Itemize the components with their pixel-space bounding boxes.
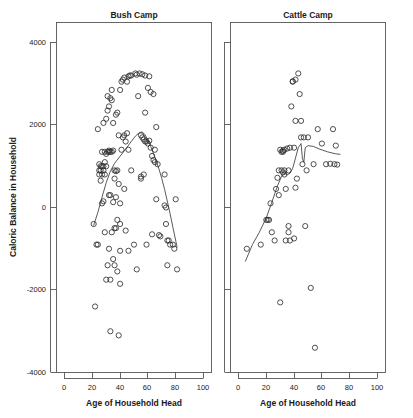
chart-figure: Bush Camp 4000 2000 0 -2000 -4000 Calori…	[0, 0, 413, 418]
xtick-label-20: 20	[88, 383, 96, 392]
xtick-label-60: 60	[143, 383, 151, 392]
xtick2-label-80: 80	[345, 383, 353, 392]
ytick-label-4000: 4000	[29, 38, 46, 47]
ytick-label-2000: 2000	[29, 120, 46, 129]
scatter-plot-svg: Bush Camp 4000 2000 0 -2000 -4000 Calori…	[0, 0, 413, 418]
figure-background	[0, 0, 413, 418]
xtick-label-80: 80	[171, 383, 179, 392]
xtick2-label-60: 60	[317, 383, 325, 392]
xtick-label-40: 40	[116, 383, 124, 392]
xtick2-label-100: 100	[371, 383, 384, 392]
xtick-label-100: 100	[197, 383, 210, 392]
xtick2-label-0: 0	[236, 383, 240, 392]
panel-title-cattle-camp: Cattle Camp	[283, 10, 333, 20]
xtick2-label-20: 20	[262, 383, 270, 392]
x-axis-title-cattle: Age of Household Head	[260, 398, 356, 408]
xtick-label-0: 0	[62, 383, 66, 392]
x-axis-title-bush: Age of Household Head	[86, 398, 182, 408]
ytick-label-neg2000: -2000	[27, 285, 46, 294]
panel-title-bush-camp: Bush Camp	[110, 10, 157, 20]
ytick-label-0: 0	[42, 203, 46, 212]
ytick-label-neg4000: -4000	[27, 368, 46, 377]
xtick2-label-40: 40	[290, 383, 298, 392]
y-axis-title: Caloric Balance in Household	[8, 137, 18, 257]
